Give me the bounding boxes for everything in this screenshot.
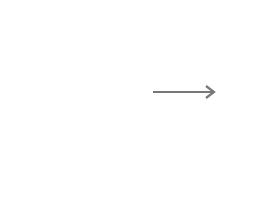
place-value-diagram <box>0 0 273 201</box>
ten-rod <box>234 29 260 153</box>
right-arrow-icon <box>150 84 220 100</box>
